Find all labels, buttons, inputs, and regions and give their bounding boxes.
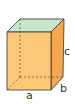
label-a: a bbox=[26, 89, 33, 102]
label-b: b bbox=[60, 82, 67, 95]
front-face bbox=[7, 32, 51, 90]
cuboid-diagram: a b c bbox=[0, 0, 75, 104]
side-face bbox=[51, 19, 64, 90]
label-c: c bbox=[64, 45, 70, 58]
